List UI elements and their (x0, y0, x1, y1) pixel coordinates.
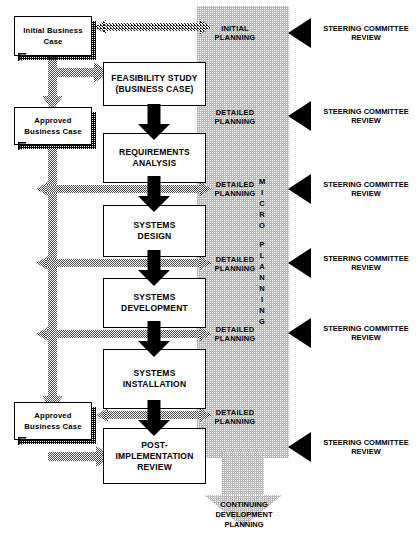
band-label-initial-planning: INITIAL PLANNING (204, 24, 266, 42)
process-label: REQUIREMENTS ANALYSIS (116, 147, 193, 169)
review-label-line2: REVIEW (314, 333, 417, 343)
review-label-line2: REVIEW (314, 263, 417, 273)
review-label-line2: REVIEW (314, 189, 417, 199)
document-approved-business-case-1[interactable]: Approved Business Case (14, 107, 92, 145)
band-label-line2: PLANNING (204, 33, 266, 42)
process-label-line1: SYSTEMS (121, 292, 188, 303)
micro-planning-letter: I (256, 294, 268, 305)
feedback-arrow-initial-planning (94, 20, 212, 34)
flow-arrow-development-to-installation (137, 321, 171, 357)
continuing-label-line1: CONTINUING (196, 500, 292, 510)
band-label-line1: INITIAL (204, 24, 266, 33)
process-post-implementation-review[interactable]: POST-IMPLEMENTATION REVIEW (103, 428, 206, 484)
band-label-detailed-planning-4: DETAILED PLANNING (204, 325, 266, 343)
document-approved-business-case-2[interactable]: Approved Business Case (14, 402, 92, 440)
arrow-shaft (148, 176, 161, 198)
document-initial-business-case[interactable]: Initial Business Case (14, 16, 92, 56)
review-label-line1: STEERING COMMITTEE (314, 24, 417, 34)
review-label: STEERING COMMITTEE REVIEW (314, 24, 417, 43)
arrow-shaft (148, 104, 161, 126)
micro-planning-letter: O (256, 220, 268, 231)
review-label: STEERING COMMITTEE REVIEW (314, 254, 417, 273)
document-corner-icon (18, 142, 27, 151)
process-label-line1: REQUIREMENTS (119, 147, 190, 158)
review-label-line1: STEERING COMMITTEE (314, 254, 417, 264)
diagram-canvas: INITIAL PLANNING DETAILED PLANNING DETAI… (0, 0, 417, 544)
continuing-label-line2: DEVELOPMENT (196, 510, 292, 520)
steering-committee-review-3[interactable]: STEERING COMMITTEE REVIEW (288, 174, 417, 204)
steering-committee-review-1[interactable]: STEERING COMMITTEE REVIEW (288, 18, 417, 48)
process-label-line1: SYSTEMS (123, 368, 186, 379)
arrow-shaft (148, 400, 161, 422)
process-label: SYSTEMS INSTALLATION (120, 368, 189, 390)
micro-planning-letter: I (256, 187, 268, 198)
flow-arrow-feasibility-to-requirements (137, 104, 171, 140)
feedback-arrow-detailed-2 (36, 256, 212, 270)
document-label-line1: Approved (24, 410, 81, 421)
micro-planning-letter: G (256, 316, 268, 327)
micro-planning-letter: P (256, 239, 268, 250)
document-corner-icon (18, 437, 27, 446)
process-label-line1: FEASIBILITY STUDY (111, 73, 197, 84)
band-label-detailed-planning-5: DETAILED PLANNING (204, 408, 266, 426)
process-label-line2: DEVELOPMENT (121, 303, 188, 314)
document-label-line2: Business Case (24, 126, 81, 137)
process-label-line2: REVIEW (107, 462, 202, 473)
micro-planning-letter: R (256, 209, 268, 220)
flow-arrow-requirements-to-design (137, 176, 171, 212)
arrow-head (138, 124, 170, 140)
band-label-detailed-planning-1: DETAILED PLANNING (204, 108, 266, 126)
steering-committee-review-2[interactable]: STEERING COMMITTEE REVIEW (288, 101, 417, 131)
continuing-development-planning-label: CONTINUING DEVELOPMENT PLANNING (196, 500, 292, 530)
arrow-shaft (148, 250, 161, 272)
review-label-line2: REVIEW (314, 116, 417, 126)
review-label: STEERING COMMITTEE REVIEW (314, 180, 417, 199)
review-label: STEERING COMMITTEE REVIEW (314, 107, 417, 126)
steering-committee-review-5[interactable]: STEERING COMMITTEE REVIEW (288, 318, 417, 348)
document-label-line1: Approved (24, 115, 81, 126)
document-label-line2: Business Case (24, 421, 81, 432)
document-label: Approved Business Case (21, 410, 84, 432)
micro-planning-letter: A (256, 261, 268, 272)
steering-committee-review-6[interactable]: STEERING COMMITTEE REVIEW (288, 432, 417, 462)
micro-planning-label: M I C R O P L A N N I N G (256, 176, 268, 327)
process-label: FEASIBILITY STUDY (BUSINESS CASE) (108, 73, 200, 95)
feedback-arrow-detailed-1 (36, 182, 212, 196)
review-label-line1: STEERING COMMITTEE (314, 107, 417, 117)
process-label: SYSTEMS DEVELOPMENT (118, 292, 191, 314)
review-label-line2: REVIEW (314, 447, 417, 457)
micro-planning-letter: M (256, 176, 268, 187)
process-label-line1: POST-IMPLEMENTATION (107, 440, 202, 462)
document-label-line1: Initial Business (23, 25, 83, 36)
process-label-line2: ANALYSIS (119, 158, 190, 169)
micro-planning-letter: N (256, 272, 268, 283)
arrow-shaft (46, 330, 202, 338)
process-label-line2: INSTALLATION (123, 379, 186, 390)
triangle-pointer-icon (288, 18, 311, 48)
arrow-shaft (46, 259, 202, 267)
triangle-pointer-icon (288, 101, 311, 131)
band-label-line2: PLANNING (204, 117, 266, 126)
document-label: Initial Business Case (20, 25, 86, 47)
triangle-pointer-icon (288, 248, 311, 278)
process-label-line1: SYSTEMS (133, 220, 175, 231)
process-label-line2: (BUSINESS CASE) (111, 84, 197, 95)
triangle-pointer-icon (288, 318, 311, 348)
review-label-line2: REVIEW (314, 33, 417, 43)
planning-band (197, 6, 289, 458)
micro-planning-letter: N (256, 305, 268, 316)
micro-planning-letter: N (256, 283, 268, 294)
process-label: POST-IMPLEMENTATION REVIEW (104, 440, 205, 473)
document-corner-icon (18, 53, 27, 62)
process-feasibility-study[interactable]: FEASIBILITY STUDY (BUSINESS CASE) (103, 62, 206, 106)
micro-planning-gap (256, 231, 268, 239)
review-label-line1: STEERING COMMITTEE (314, 180, 417, 190)
band-label-line2: PLANNING (204, 417, 266, 426)
continuing-planning-arrow-shaft (222, 452, 264, 502)
arrow-shaft (148, 321, 161, 343)
continuing-label-line3: PLANNING (196, 520, 292, 530)
arrow-head (138, 196, 170, 212)
document-label-line2: Case (23, 36, 83, 47)
steering-committee-review-4[interactable]: STEERING COMMITTEE REVIEW (288, 248, 417, 278)
arrow-shaft (46, 185, 202, 193)
